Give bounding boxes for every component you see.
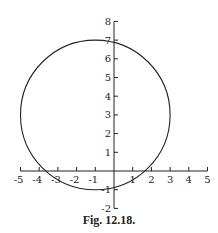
x-tick-label: -2 xyxy=(70,174,80,185)
y-tick-label: 6 xyxy=(105,53,111,64)
x-tick-label: 2 xyxy=(148,174,154,185)
figure-caption: Fig. 12.18. xyxy=(0,213,218,228)
x-tick-label: -1 xyxy=(88,174,98,185)
y-tick-label: 5 xyxy=(105,72,111,83)
y-tick-label: 2 xyxy=(105,128,111,139)
y-tick-label: 1 xyxy=(105,147,111,158)
figure-plot: -5-4-3-2-112345-2-112345678 xyxy=(0,0,218,233)
x-tick-label: -5 xyxy=(14,174,24,185)
y-tick-label: 7 xyxy=(105,35,111,46)
tick-labels: -5-4-3-2-112345-2-112345678 xyxy=(14,16,211,214)
y-tick-label: 4 xyxy=(105,91,111,102)
x-tick-label: 5 xyxy=(204,174,210,185)
x-tick-label: -4 xyxy=(32,174,42,185)
x-tick-label: 4 xyxy=(186,174,192,185)
y-tick-label: 3 xyxy=(105,109,111,120)
x-tick-label: 3 xyxy=(167,174,173,185)
y-tick-label: 8 xyxy=(105,16,111,27)
